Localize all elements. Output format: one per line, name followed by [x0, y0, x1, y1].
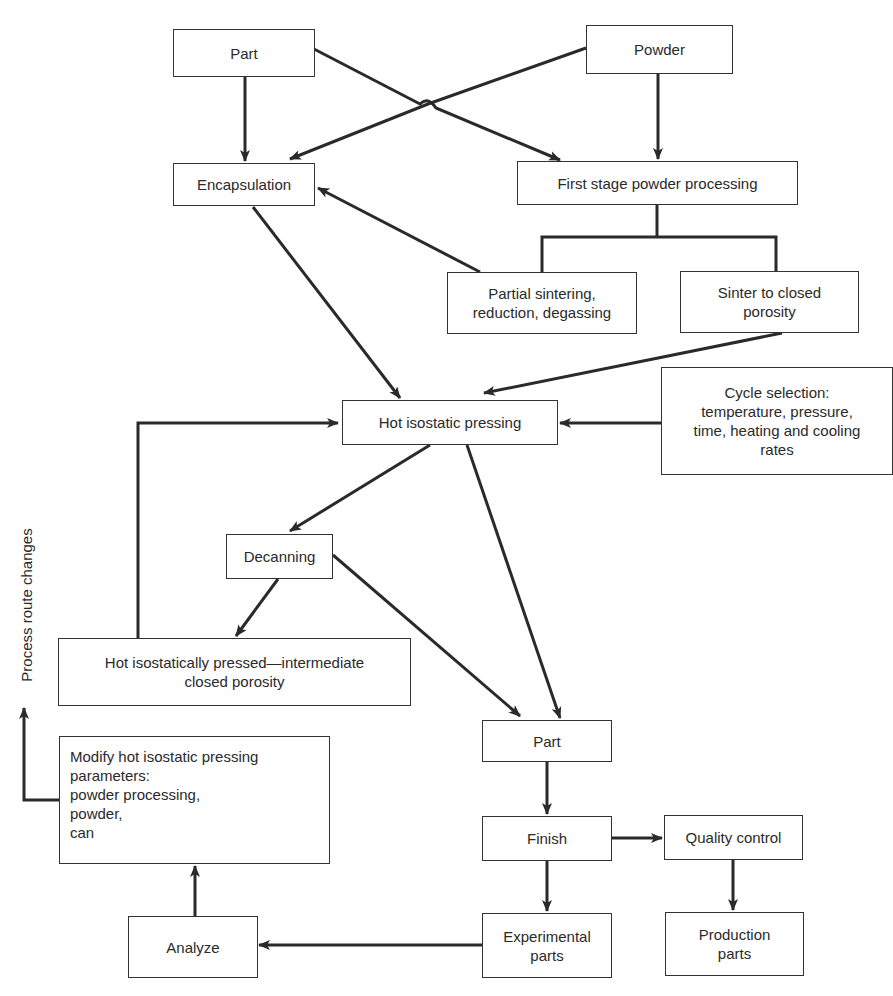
node-encapsulation: Encapsulation — [173, 163, 315, 206]
node-finish: Finish — [482, 816, 612, 861]
arrow-intermediate-to-hip — [138, 423, 338, 638]
node-production-parts: Production parts — [665, 912, 804, 976]
node-hip-intermediate-closed-porosity: Hot isostatically pressed—intermediate c… — [58, 638, 411, 706]
node-partial-sintering: Partial sintering, reduction, degassing — [447, 272, 637, 334]
arrow-partial-sintering-to-encapsulation — [318, 188, 480, 272]
arrow-encapsulation-to-hip — [253, 207, 400, 398]
node-part-top: Part — [173, 29, 315, 77]
node-quality-control: Quality control — [664, 815, 803, 860]
node-experimental-parts: Experimental parts — [482, 913, 612, 978]
node-hot-isostatic-pressing: Hot isostatic pressing — [342, 400, 558, 445]
arrow-hip-to-decanning — [290, 445, 430, 531]
node-cycle-selection: Cycle selection: temperature, pressure, … — [661, 367, 893, 475]
arrow-part-to-first-stage — [314, 49, 560, 160]
side-label-text: Process route changes — [18, 528, 35, 681]
node-analyze: Analyze — [128, 916, 258, 978]
side-label-process-route-changes: Process route changes — [16, 505, 36, 705]
node-decanning: Decanning — [226, 534, 333, 579]
node-first-stage-powder-processing: First stage powder processing — [517, 161, 798, 205]
node-part-bottom: Part — [482, 720, 612, 762]
node-powder: Powder — [586, 25, 733, 74]
branch-bracket — [542, 205, 776, 272]
node-sinter-closed-porosity: Sinter to closed porosity — [680, 271, 859, 333]
arrow-powder-to-encapsulation — [290, 48, 586, 159]
arrow-hip-to-part — [467, 445, 560, 718]
arrow-modify-to-route-changes — [24, 708, 59, 800]
arrow-decanning-to-intermediate — [236, 579, 278, 636]
node-modify-hip-parameters: Modify hot isostatic pressing parameters… — [59, 736, 330, 864]
